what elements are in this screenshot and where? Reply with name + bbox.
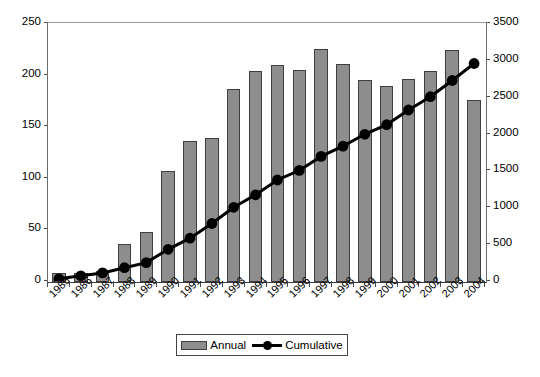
left-axis-tick-label: 100 xyxy=(1,171,41,183)
cumulative-line xyxy=(59,64,474,279)
cumulative-line-layer xyxy=(48,23,485,281)
cumulative-marker xyxy=(207,218,218,229)
left-axis-tick-label: 0 xyxy=(1,274,41,286)
cumulative-marker xyxy=(447,75,458,86)
legend-label-cumulative: Cumulative xyxy=(285,339,343,351)
legend-label-annual: Annual xyxy=(210,339,246,351)
cumulative-marker xyxy=(381,119,392,130)
plot-area xyxy=(47,22,487,283)
right-axis-tick-label: 500 xyxy=(493,237,539,249)
cumulative-marker xyxy=(250,189,261,200)
left-axis-tick-label: 200 xyxy=(1,68,41,80)
right-axis-tick-label: 3500 xyxy=(493,16,539,28)
right-axis-tick-label: 2000 xyxy=(493,127,539,139)
cumulative-marker xyxy=(316,151,327,162)
cumulative-marker xyxy=(425,91,436,102)
legend-entry-annual: Annual xyxy=(181,339,246,351)
right-axis-tick-label: 1500 xyxy=(493,164,539,176)
legend-bar-swatch-icon xyxy=(181,341,207,350)
right-axis-tick-label: 3000 xyxy=(493,53,539,65)
left-axis-tick-label: 150 xyxy=(1,119,41,131)
chart-container: 050100150200250 050010001500200025003000… xyxy=(0,0,540,377)
cumulative-marker xyxy=(119,262,130,273)
legend-entry-cumulative: Cumulative xyxy=(252,339,343,351)
cumulative-marker xyxy=(338,141,349,152)
cumulative-marker xyxy=(294,165,305,176)
cumulative-marker xyxy=(469,58,480,69)
cumulative-marker xyxy=(272,175,283,186)
chart-legend: Annual Cumulative xyxy=(176,334,348,356)
right-axis-tick-label: 0 xyxy=(493,274,539,286)
left-axis-tick-label: 250 xyxy=(1,16,41,28)
left-axis-tick-label: 50 xyxy=(1,223,41,235)
legend-line-dot-swatch-icon xyxy=(252,340,282,350)
cumulative-marker xyxy=(228,202,239,213)
cumulative-marker xyxy=(359,129,370,140)
right-axis-tick-label: 2500 xyxy=(493,90,539,102)
right-axis-tick-label: 1000 xyxy=(493,201,539,213)
cumulative-marker xyxy=(141,257,152,268)
cumulative-marker xyxy=(163,244,174,255)
x-axis-tick xyxy=(47,281,48,287)
cumulative-marker xyxy=(185,233,196,244)
cumulative-marker xyxy=(403,105,414,116)
